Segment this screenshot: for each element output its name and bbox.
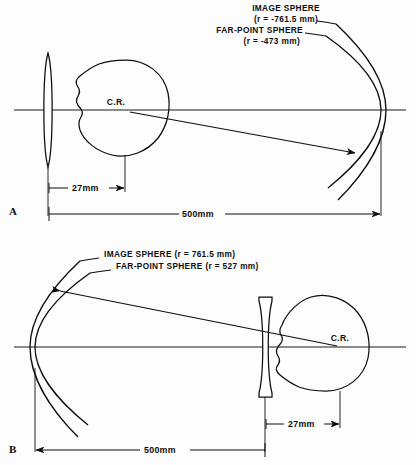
dimension-27mm-b-label: 27mm <box>288 419 315 429</box>
image-sphere-arc-b <box>30 261 80 437</box>
far-point-sphere-label-a-line2: (r = -473 mm) <box>244 36 300 46</box>
far-point-sphere-label-a-line1: FAR-POINT SPHERE <box>216 25 303 35</box>
optical-diagram-svg: 27mm 500mm IMAGE SPHERE (r = -761.5 mm) … <box>0 0 416 465</box>
image-sphere-leader-b <box>80 258 99 261</box>
image-sphere-label-a-line2: (r = -761.5 mm) <box>254 14 318 24</box>
far-point-sphere-arc-a <box>326 36 381 188</box>
image-sphere-label-a-line1: IMAGE SPHERE <box>252 3 320 13</box>
center-of-rotation-label-b: C.R. <box>331 333 349 343</box>
dimension-27mm-a: 27mm <box>49 183 124 193</box>
dimension-500mm-b: 500mm <box>36 443 265 457</box>
eye-globe-a <box>76 60 169 156</box>
far-point-sphere-label-b: FAR-POINT SPHERE (r = 527 mm) <box>116 261 259 271</box>
dimension-500mm-b-label: 500mm <box>144 445 176 455</box>
panel-b: 27mm 500mm IMAGE SPHERE (r = 761.5 mm) F… <box>9 249 406 457</box>
panel-marker-b: B <box>9 443 17 455</box>
center-of-rotation-label-a: C.R. <box>107 97 125 107</box>
convex-lens-a <box>44 53 52 167</box>
dimension-500mm-a-label: 500mm <box>182 209 214 219</box>
figure-root: 27mm 500mm IMAGE SPHERE (r = -761.5 mm) … <box>0 0 416 465</box>
panel-marker-a: A <box>9 205 17 217</box>
far-point-sphere-leader-a <box>305 33 326 36</box>
dimension-27mm-b: 27mm <box>266 419 339 429</box>
chief-ray-a <box>130 112 355 153</box>
image-sphere-leader-a <box>317 21 336 24</box>
dimension-27mm-a-label: 27mm <box>72 183 99 193</box>
image-sphere-arc-a <box>336 24 386 200</box>
far-point-sphere-leader-b <box>90 270 111 273</box>
panel-a: 27mm 500mm IMAGE SPHERE (r = -761.5 mm) … <box>9 3 406 221</box>
dimension-500mm-a: 500mm <box>49 207 380 221</box>
chief-ray-b <box>60 291 337 346</box>
image-sphere-label-b: IMAGE SPHERE (r = 761.5 mm) <box>104 249 235 259</box>
